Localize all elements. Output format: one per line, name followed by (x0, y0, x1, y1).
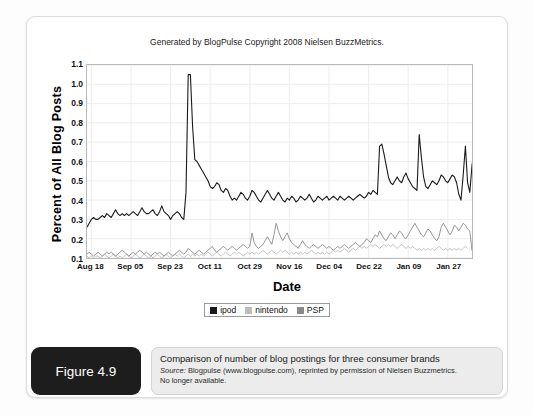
y-axis-ticks: 1.11.00.90.80.70.60.50.40.30.20.1 (45, 64, 83, 259)
legend-item-nintendo[interactable]: nintendo (245, 305, 288, 315)
series-line-ipod (87, 75, 472, 227)
figure-card: Generated by BlogPulse Copyright 2008 Ni… (26, 16, 508, 398)
chart-legend: ipodnintendoPSP (27, 303, 507, 317)
y-tick-label: 0.9 (49, 98, 83, 108)
legend-label: ipod (220, 305, 236, 315)
y-tick-label: 0.3 (49, 215, 83, 225)
figure-caption-bar: Figure 4.9 Comparison of number of blog … (27, 345, 507, 397)
y-tick-label: 0.2 (49, 235, 83, 245)
screenshot-root: Generated by BlogPulse Copyright 2008 Ni… (0, 0, 533, 415)
legend-swatch-icon (297, 307, 304, 314)
x-tick-label: Sep 05 (117, 262, 143, 271)
chart-block: Generated by BlogPulse Copyright 2008 Ni… (27, 17, 507, 337)
legend-box: ipodnintendoPSP (204, 303, 330, 317)
x-tick-label: Aug 18 (77, 262, 104, 271)
x-tick-label: Sep 23 (157, 262, 183, 271)
x-tick-label: Dec 04 (316, 262, 342, 271)
x-tick-label: Nov 16 (276, 262, 302, 271)
series-line-nintendo (87, 244, 468, 258)
caption-source-prefix: Source: (160, 366, 186, 375)
x-tick-label: Jan 27 (436, 262, 461, 271)
x-tick-label: Oct 11 (198, 262, 222, 271)
y-tick-label: 0.8 (49, 118, 83, 128)
y-tick-label: 0.6 (49, 157, 83, 167)
y-tick-label: 1.1 (49, 59, 83, 69)
legend-swatch-icon (210, 307, 217, 314)
caption-source: Source: Blogpulse (www.blogpulse.com), r… (160, 366, 494, 376)
caption-source-text: Blogpulse (www.blogpulse.com), reprinted… (186, 366, 457, 375)
figure-number-label: Figure 4.9 (56, 364, 117, 379)
y-tick-label: 1.0 (49, 79, 83, 89)
series-canvas (87, 65, 472, 258)
y-tick-label: 0.7 (49, 137, 83, 147)
caption-title: Comparison of number of blog postings fo… (160, 353, 494, 365)
y-tick-label: 0.4 (49, 196, 83, 206)
y-tick-label: 0.5 (49, 176, 83, 186)
plot-area (86, 64, 473, 259)
legend-item-ipod[interactable]: ipod (210, 305, 236, 315)
legend-item-psp[interactable]: PSP (297, 305, 324, 315)
chart-title: Generated by BlogPulse Copyright 2008 Ni… (27, 37, 507, 47)
caption-panel: Comparison of number of blog postings fo… (151, 347, 503, 395)
figure-number-badge: Figure 4.9 (31, 347, 141, 395)
x-tick-label: Oct 29 (237, 262, 261, 271)
caption-note: No longer available. (160, 376, 494, 386)
legend-label: PSP (307, 305, 324, 315)
legend-label: nintendo (255, 305, 288, 315)
legend-swatch-icon (245, 307, 252, 314)
x-axis-label: Date (87, 279, 487, 294)
x-tick-label: Dec 22 (356, 262, 382, 271)
x-axis-ticks: Aug 18Sep 05Sep 23Oct 11Oct 29Nov 16Dec … (86, 262, 473, 276)
x-tick-label: Jan 09 (396, 262, 421, 271)
